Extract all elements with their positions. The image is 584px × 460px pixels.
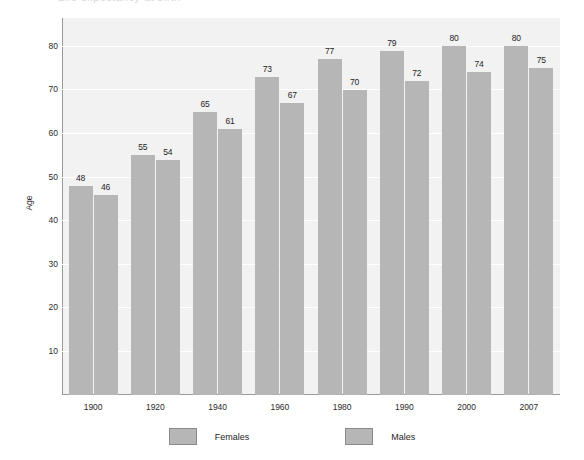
y-axis-tick-label: 30	[18, 260, 58, 269]
bar-females-2007[interactable]	[504, 46, 528, 395]
bar-males-2007[interactable]	[529, 68, 553, 395]
y-axis-tick-label: 10	[18, 347, 58, 356]
legend-label: Males	[391, 432, 415, 442]
chart-legend: FemalesMales	[0, 428, 584, 445]
bar-males-2000[interactable]	[467, 72, 491, 395]
bar-value-label: 74	[459, 59, 499, 69]
y-axis-tick-label: 80	[18, 42, 58, 51]
x-axis-tick-label-2007: 2007	[499, 402, 559, 412]
bar-females-1980[interactable]	[318, 59, 342, 395]
bar-value-label: 70	[335, 77, 375, 87]
plot-inner: 48465554656173677770797280748075	[62, 18, 560, 395]
x-axis-tick-label-2000: 2000	[437, 402, 497, 412]
bar-males-1960[interactable]	[280, 103, 304, 395]
bar-value-label: 67	[272, 90, 312, 100]
bar-value-label: 46	[86, 182, 126, 192]
x-axis-tick-label-1940: 1940	[188, 402, 248, 412]
legend-label: Females	[215, 432, 250, 442]
bar-females-1900[interactable]	[69, 186, 93, 395]
bar-females-1920[interactable]	[131, 155, 155, 395]
x-axis-tick-label-1900: 1900	[63, 402, 123, 412]
bar-value-label: 61	[210, 116, 250, 126]
x-axis-tick-label-1990: 1990	[374, 402, 434, 412]
legend-swatch-males	[345, 428, 373, 445]
bar-value-label: 72	[397, 68, 437, 78]
bar-males-1920[interactable]	[156, 160, 180, 395]
bar-males-1980[interactable]	[343, 90, 367, 395]
bar-value-label: 73	[247, 64, 287, 74]
x-axis-tick-label-1980: 1980	[312, 402, 372, 412]
bar-value-label: 79	[372, 38, 412, 48]
legend-item-females[interactable]: Females	[169, 428, 250, 445]
cropped-title-text: Life expectancy at birth	[58, 0, 258, 3]
bar-value-label: 75	[521, 55, 561, 65]
y-axis-tick-labels: 1020304050607080	[12, 18, 58, 395]
y-axis-tick-label: 50	[18, 173, 58, 182]
bar-males-1900[interactable]	[94, 195, 118, 395]
legend-item-males[interactable]: Males	[345, 428, 415, 445]
bar-females-1990[interactable]	[380, 51, 404, 395]
bar-chart: Life expectancy at birth Age 10203040506…	[0, 0, 584, 460]
plot-area: 48465554656173677770797280748075	[62, 18, 560, 395]
legend-swatch-females	[169, 428, 197, 445]
y-axis-tick-label: 40	[18, 216, 58, 225]
bar-value-label: 54	[148, 147, 188, 157]
bar-males-1940[interactable]	[218, 129, 242, 395]
bar-value-label: 65	[185, 99, 225, 109]
bar-value-label: 77	[310, 46, 350, 56]
bar-females-1960[interactable]	[255, 77, 279, 395]
bar-females-1940[interactable]	[193, 112, 217, 395]
y-axis-tick-label: 70	[18, 85, 58, 94]
x-axis-tick-label-1920: 1920	[125, 402, 185, 412]
y-axis-tick-label: 20	[18, 303, 58, 312]
x-axis-tick-label-1960: 1960	[250, 402, 310, 412]
bar-value-label: 80	[496, 33, 536, 43]
bar-males-1990[interactable]	[405, 81, 429, 395]
bar-value-label: 80	[434, 33, 474, 43]
bar-females-2000[interactable]	[442, 46, 466, 395]
y-axis-tick-label: 60	[18, 129, 58, 138]
y-axis-line	[62, 18, 63, 395]
